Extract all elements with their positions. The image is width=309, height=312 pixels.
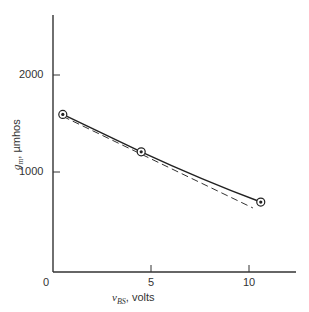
x-axis-label: vBS, volts: [112, 291, 155, 306]
chart-plot: [0, 0, 309, 312]
data-point-center: [140, 150, 143, 153]
fit-dashed-line: [63, 116, 253, 208]
data-point-center: [61, 113, 64, 116]
measured-line: [63, 114, 261, 202]
x-tick-label-0: 0: [43, 276, 49, 288]
y-axis-label: gm, µmhos: [10, 119, 25, 170]
x-tick-label-5: 5: [148, 276, 154, 288]
x-tick-label-10: 10: [243, 276, 255, 288]
data-point-center: [259, 200, 262, 203]
y-tick-label-2000: 2000: [19, 68, 43, 80]
